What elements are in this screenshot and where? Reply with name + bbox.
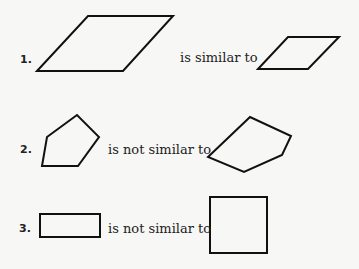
item-2-relation: is not similar to	[108, 142, 211, 157]
rectangle	[40, 214, 100, 237]
square	[210, 197, 267, 253]
item-3-relation: is not similar to	[108, 221, 211, 236]
irregular-pentagon	[208, 117, 291, 172]
item-1-number: 1.	[20, 53, 32, 66]
large-parallelogram	[37, 16, 173, 71]
small-parallelogram	[258, 37, 339, 69]
pentagon	[42, 115, 99, 166]
item-2-number: 2.	[20, 143, 32, 156]
item-3-number: 3.	[19, 222, 31, 235]
item-1-relation: is similar to	[180, 50, 258, 65]
